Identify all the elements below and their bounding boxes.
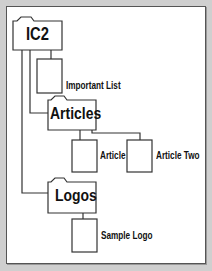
document-icon-sample-logo (72, 219, 97, 252)
folder-label-logos: Logos (55, 186, 97, 206)
document-label-article: Article (100, 150, 126, 161)
document-icon-important-list (37, 59, 62, 93)
document-label-article-two: Article Two (156, 150, 200, 161)
document-label-important-list: Important List (66, 80, 121, 91)
connector-articles-article-two (92, 130, 140, 140)
folder-label-ic2: IC2 (26, 24, 49, 45)
document-label-sample-logo: Sample Logo (101, 230, 152, 241)
document-icon-article (72, 140, 97, 172)
document-icon-article-two (127, 140, 152, 172)
folder-label-articles: Articles (50, 104, 101, 124)
